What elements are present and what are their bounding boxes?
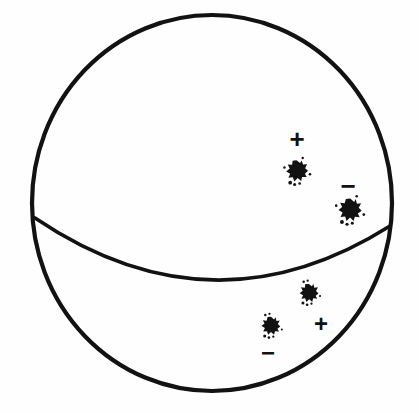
marker-southern-positive: +: [314, 310, 328, 337]
sphere-diagram: + −: [0, 0, 419, 413]
plus-sign-icon: +: [314, 310, 328, 337]
minus-sign-icon: −: [261, 339, 275, 366]
minus-sign-icon: −: [340, 171, 355, 201]
marker-southern-negative: −: [261, 339, 275, 366]
plus-sign-icon: +: [289, 124, 304, 154]
figure-canvas: + −: [0, 0, 419, 413]
